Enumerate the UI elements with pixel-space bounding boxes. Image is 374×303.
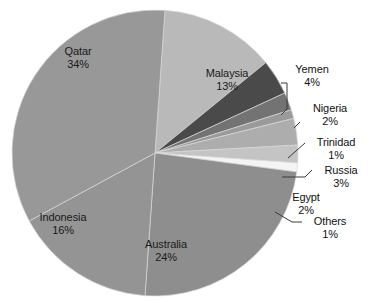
slice-label-qatar-pct: 34% (47, 58, 109, 71)
slice-label-qatar: Qatar 34% (47, 45, 109, 70)
slice-label-malaysia-pct: 13% (196, 80, 258, 93)
slice-label-indonesia: Indonesia 16% (28, 211, 98, 236)
pie-slice-australia[interactable] (145, 153, 297, 296)
slice-label-egypt-name: Egypt (283, 191, 329, 204)
slice-label-malaysia: Malaysia 13% (196, 67, 258, 92)
slice-label-trinidad-name: Trinidad (306, 136, 366, 149)
slice-label-nigeria: Nigeria 2% (303, 102, 357, 127)
slice-label-australia-name: Australia (131, 238, 201, 251)
slice-label-yemen-pct: 4% (286, 76, 338, 89)
slice-label-trinidad: Trinidad 1% (306, 136, 366, 161)
slice-label-indonesia-pct: 16% (28, 224, 98, 237)
slice-label-trinidad-pct: 1% (306, 149, 366, 162)
slice-label-yemen: Yemen 4% (286, 63, 338, 88)
slice-label-others-name: Others (304, 215, 356, 228)
slice-label-others: Others 1% (304, 215, 356, 240)
slice-label-indonesia-name: Indonesia (28, 211, 98, 224)
slice-label-malaysia-name: Malaysia (196, 67, 258, 80)
pie-chart-figure: Qatar 34% Malaysia 13% Indonesia 16% Aus… (0, 0, 374, 303)
slice-label-nigeria-pct: 2% (303, 115, 357, 128)
slice-label-australia-pct: 24% (131, 251, 201, 264)
slice-label-qatar-name: Qatar (47, 45, 109, 58)
slice-label-russia-pct: 3% (313, 177, 369, 190)
slice-label-australia: Australia 24% (131, 238, 201, 263)
slice-label-russia: Russia 3% (313, 164, 369, 189)
slice-label-nigeria-name: Nigeria (303, 102, 357, 115)
slice-label-egypt: Egypt 2% (283, 191, 329, 216)
slice-label-yemen-name: Yemen (286, 63, 338, 76)
slice-label-others-pct: 1% (304, 228, 356, 241)
slice-label-russia-name: Russia (313, 164, 369, 177)
